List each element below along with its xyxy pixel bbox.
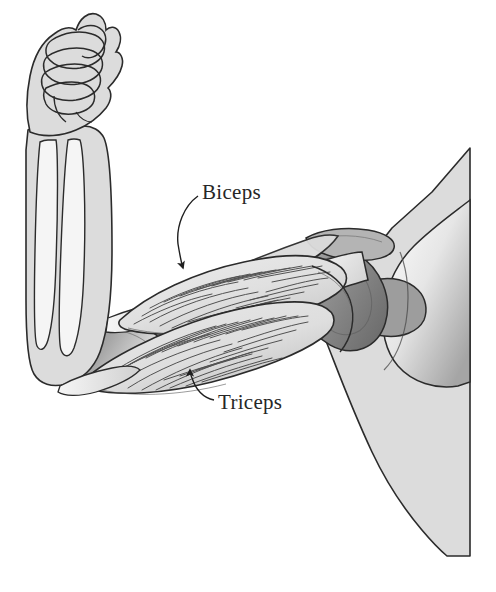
- biceps-leader-line: [178, 196, 198, 268]
- figure-canvas: Biceps Triceps: [0, 0, 496, 592]
- fist: [27, 14, 123, 136]
- anatomy-illustration: [0, 0, 496, 592]
- biceps-label: Biceps: [202, 182, 261, 203]
- triceps-label: Triceps: [218, 392, 282, 413]
